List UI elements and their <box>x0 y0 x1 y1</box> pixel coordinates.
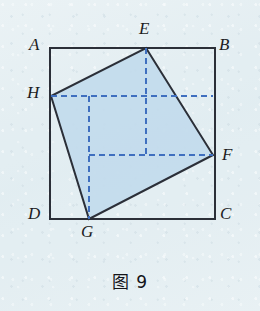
vertex-label-f: F <box>222 146 232 163</box>
vertex-label-b: B <box>219 36 229 53</box>
figure-caption: 图 9 <box>0 268 260 293</box>
geometry-figure: A B C D E F G H <box>0 0 260 311</box>
vertex-label-d: D <box>28 205 40 222</box>
vertex-label-a: A <box>29 36 39 53</box>
vertex-label-e: E <box>139 20 149 37</box>
vertex-label-g: G <box>81 223 93 240</box>
vertex-label-h: H <box>27 84 39 101</box>
inner-square-efgh <box>51 48 213 219</box>
vertex-label-c: C <box>220 205 231 222</box>
